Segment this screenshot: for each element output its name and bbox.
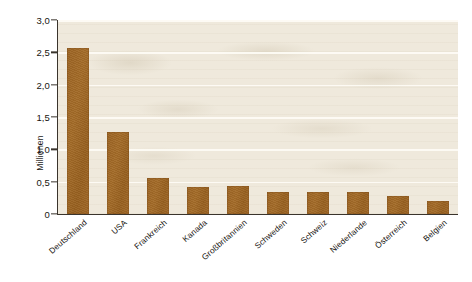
bar-chart-figure: 00,51,01,52,02,53,0 Millionen Deutschlan… bbox=[0, 0, 472, 282]
bar bbox=[67, 48, 89, 214]
bar bbox=[187, 187, 209, 214]
gridline bbox=[58, 52, 458, 54]
x-tick-label: USA bbox=[110, 218, 129, 236]
y-tick-label: 3,0 bbox=[16, 15, 50, 26]
y-tick-label: 0 bbox=[16, 209, 50, 220]
bar bbox=[107, 132, 129, 214]
bar bbox=[387, 196, 409, 214]
gridline bbox=[58, 85, 458, 87]
x-tick-label: Kanada bbox=[181, 218, 209, 244]
y-tick-mark bbox=[51, 116, 57, 117]
y-tick-mark bbox=[51, 181, 57, 182]
y-tick-mark bbox=[51, 84, 57, 85]
y-tick-mark bbox=[51, 213, 57, 214]
bar bbox=[307, 192, 329, 214]
x-tick-label: Frankreich bbox=[133, 218, 169, 251]
x-tick-label: Deutschland bbox=[47, 218, 89, 256]
bar bbox=[267, 192, 289, 214]
x-tick-label: Belgien bbox=[422, 218, 449, 243]
gridline bbox=[58, 20, 458, 22]
y-axis-title: Millionen bbox=[35, 113, 49, 193]
plot-area bbox=[58, 20, 458, 214]
bar bbox=[227, 186, 249, 214]
x-tick-label: Österreich bbox=[373, 218, 409, 251]
x-tick-label: Großbritannien bbox=[200, 218, 249, 262]
y-axis-line bbox=[57, 20, 58, 215]
gridline bbox=[58, 117, 458, 119]
y-tick-mark bbox=[51, 19, 57, 20]
x-tick-label: Schweden bbox=[253, 218, 289, 251]
y-tick-mark bbox=[51, 149, 57, 150]
x-axis-line bbox=[57, 214, 458, 216]
y-tick-mark bbox=[51, 52, 57, 53]
x-tick-label: Niederlande bbox=[328, 218, 368, 255]
y-tick-label: 2,0 bbox=[16, 79, 50, 90]
x-tick-label: Schweiz bbox=[299, 218, 329, 245]
bar bbox=[347, 192, 369, 214]
bar bbox=[147, 178, 169, 214]
y-tick-label: 2,5 bbox=[16, 47, 50, 58]
bar bbox=[427, 201, 449, 214]
